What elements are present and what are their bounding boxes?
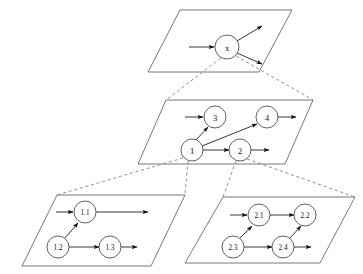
refinement-link-node1-to-bottom-left-top: [185, 161, 188, 195]
planes-layer: [22, 10, 355, 266]
node-circle-2[interactable]: [229, 139, 251, 161]
node-2.2[interactable]: 2.2: [294, 204, 316, 226]
diagram-canvas: x34121.11.21.32.12.22.32.4: [0, 0, 363, 274]
refinement-link-node1-to-bottom-left-side: [57, 158, 183, 195]
layered-statechart-svg: x34121.11.21.32.12.22.32.4: [0, 0, 363, 274]
node-3[interactable]: 3: [204, 106, 226, 128]
node-2[interactable]: 2: [229, 139, 251, 161]
node-2.4[interactable]: 2.4: [272, 236, 294, 258]
middle-level-plane: [138, 100, 313, 164]
refinement-link-node2-to-bottom-right-top: [223, 161, 236, 197]
node-2.3[interactable]: 2.3: [222, 236, 244, 258]
node-circle-2.2[interactable]: [294, 204, 316, 226]
bottom-right-plane: [185, 197, 355, 263]
node-1.1[interactable]: 1.1: [74, 201, 96, 223]
node-circle-1.3[interactable]: [99, 236, 121, 258]
node-2.1[interactable]: 2.1: [248, 204, 270, 226]
node-circle-1[interactable]: [181, 139, 203, 161]
node-circle-3[interactable]: [204, 106, 226, 128]
node-circle-2.1[interactable]: [248, 204, 270, 226]
node-1.3[interactable]: 1.3: [99, 236, 121, 258]
node-circle-2.3[interactable]: [222, 236, 244, 258]
node-circle-4[interactable]: [256, 106, 278, 128]
node-circle-1.1[interactable]: [74, 201, 96, 223]
node-x[interactable]: x: [215, 35, 239, 59]
node-1[interactable]: 1: [181, 139, 203, 161]
refinement-link-x-to-middle-right: [236, 56, 313, 100]
node-circle-2.4[interactable]: [272, 236, 294, 258]
node-1.2[interactable]: 1.2: [47, 236, 69, 258]
node-circle-x[interactable]: [215, 35, 239, 59]
node-circle-1.2[interactable]: [47, 236, 69, 258]
node-4[interactable]: 4: [256, 106, 278, 128]
refinement-link-node2-to-bottom-right-side: [247, 159, 355, 197]
